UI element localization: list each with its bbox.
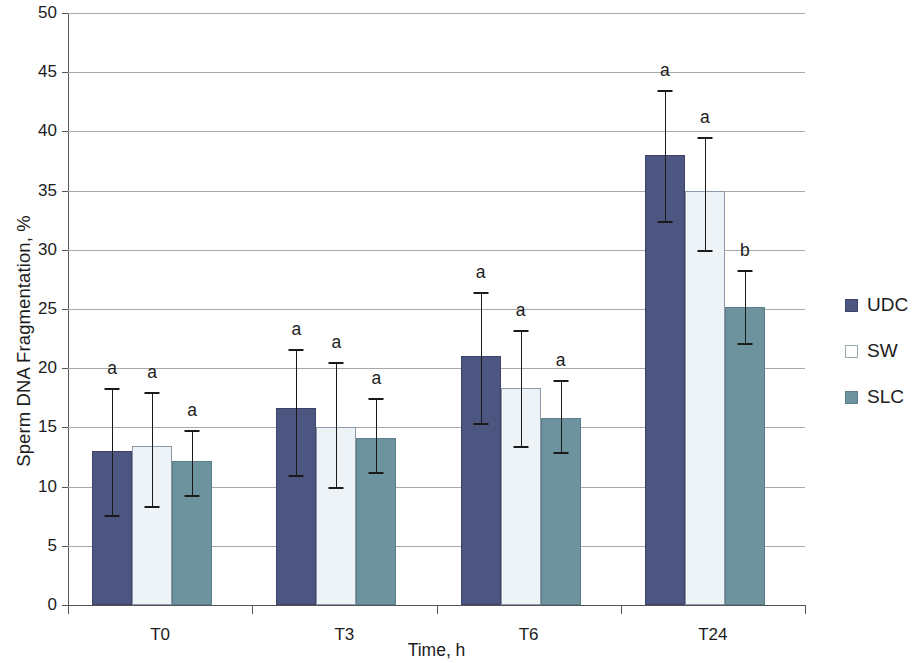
error-bar-cap-bottom xyxy=(657,221,672,223)
error-bar-cap-bottom xyxy=(105,515,120,517)
y-tick-mark xyxy=(62,13,68,14)
error-bar-cap-bottom xyxy=(369,472,384,474)
significance-letter: a xyxy=(187,402,197,420)
legend-label: UDC xyxy=(867,294,908,316)
y-tick-label: 35 xyxy=(38,181,57,201)
y-tick-mark xyxy=(62,131,68,132)
error-bar-sw-t6 xyxy=(521,330,522,446)
y-tick-label: 0 xyxy=(48,595,57,615)
x-tick-mark xyxy=(68,605,69,614)
significance-letter: a xyxy=(476,264,486,282)
y-tick-mark xyxy=(62,487,68,488)
y-tick-label: 40 xyxy=(38,121,57,141)
error-bar-cap-bottom xyxy=(329,487,344,489)
error-bar-cap-top xyxy=(145,392,160,394)
y-tick-label: 30 xyxy=(38,240,57,260)
gridline xyxy=(68,72,805,73)
error-bar-slc-t0 xyxy=(192,430,193,495)
legend-swatch-icon xyxy=(845,345,858,358)
y-tick-label: 5 xyxy=(48,536,57,556)
error-bar-cap-bottom xyxy=(145,506,160,508)
y-axis-title: Sperm DNA Fragmentation, % xyxy=(13,121,35,561)
error-bar-cap-top xyxy=(329,362,344,364)
error-bar-cap-top xyxy=(697,137,712,139)
error-bar-cap-top xyxy=(553,380,568,382)
significance-letter: a xyxy=(107,360,117,378)
error-bar-cap-top xyxy=(369,398,384,400)
gridline xyxy=(68,131,805,132)
error-bar-udc-t0 xyxy=(112,388,113,515)
plot-area: 05101520253035404550 aaaaaaaaaaab T0T3T6… xyxy=(68,13,805,605)
error-bar-sw-t3 xyxy=(336,362,337,486)
error-bar-cap-bottom xyxy=(513,446,528,448)
significance-letter: a xyxy=(147,364,157,382)
x-tick-mark xyxy=(437,605,438,614)
error-bar-cap-top xyxy=(737,270,752,272)
y-tick-mark xyxy=(62,250,68,251)
y-tick-mark xyxy=(62,72,68,73)
y-tick-mark xyxy=(62,368,68,369)
significance-letter: a xyxy=(292,321,302,339)
error-bar-cap-bottom xyxy=(289,475,304,477)
y-tick-label: 45 xyxy=(38,62,57,82)
error-bar-sw-t24 xyxy=(705,137,706,249)
legend-label: SW xyxy=(867,340,898,362)
significance-letter: a xyxy=(332,334,342,352)
error-bar-cap-top xyxy=(289,349,304,351)
legend-swatch-icon xyxy=(845,391,858,404)
legend: UDCSWSLC xyxy=(845,282,917,420)
error-bar-cap-top xyxy=(657,90,672,92)
error-bar-cap-top xyxy=(185,430,200,432)
y-tick-label: 50 xyxy=(38,3,57,23)
legend-label: SLC xyxy=(867,386,904,408)
legend-item-sw[interactable]: SW xyxy=(845,328,917,374)
significance-letter: a xyxy=(516,302,526,320)
y-tick-mark xyxy=(62,546,68,547)
gridline xyxy=(68,13,805,14)
y-tick-label: 10 xyxy=(38,477,57,497)
error-bar-cap-top xyxy=(473,292,488,294)
y-tick-label: 15 xyxy=(38,417,57,437)
legend-item-udc[interactable]: UDC xyxy=(845,282,917,328)
legend-item-slc[interactable]: SLC xyxy=(845,374,917,420)
error-bar-cap-bottom xyxy=(697,250,712,252)
bar-sw-t24 xyxy=(685,191,725,605)
error-bar-slc-t24 xyxy=(745,270,746,343)
y-tick-label: 25 xyxy=(38,299,57,319)
significance-letter: a xyxy=(372,370,382,388)
error-bar-slc-t3 xyxy=(376,398,377,473)
error-bar-udc-t3 xyxy=(296,349,297,475)
x-tick-mark xyxy=(252,605,253,614)
error-bar-udc-t24 xyxy=(665,90,666,221)
error-bar-cap-bottom xyxy=(737,343,752,345)
error-bar-sw-t0 xyxy=(152,392,153,506)
error-bar-cap-bottom xyxy=(185,495,200,497)
error-bar-cap-top xyxy=(513,330,528,332)
significance-letter: a xyxy=(556,352,566,370)
bar-slc-t24 xyxy=(725,307,765,605)
legend-swatch-icon xyxy=(845,299,858,312)
error-bar-cap-bottom xyxy=(473,423,488,425)
y-tick-mark xyxy=(62,191,68,192)
error-bar-udc-t6 xyxy=(481,292,482,422)
error-bar-slc-t6 xyxy=(561,380,562,452)
y-tick-mark xyxy=(62,427,68,428)
significance-letter: a xyxy=(660,62,670,80)
error-bar-cap-bottom xyxy=(553,452,568,454)
significance-letter: b xyxy=(740,242,750,260)
x-tick-mark xyxy=(805,605,806,614)
x-tick-mark xyxy=(621,605,622,614)
significance-letter: a xyxy=(700,109,710,127)
y-tick-mark xyxy=(62,309,68,310)
x-axis-title: Time, h xyxy=(68,640,805,661)
error-bar-cap-top xyxy=(105,388,120,390)
bar-chart: Sperm DNA Fragmentation, % 0510152025303… xyxy=(0,0,917,663)
y-tick-label: 20 xyxy=(38,358,57,378)
